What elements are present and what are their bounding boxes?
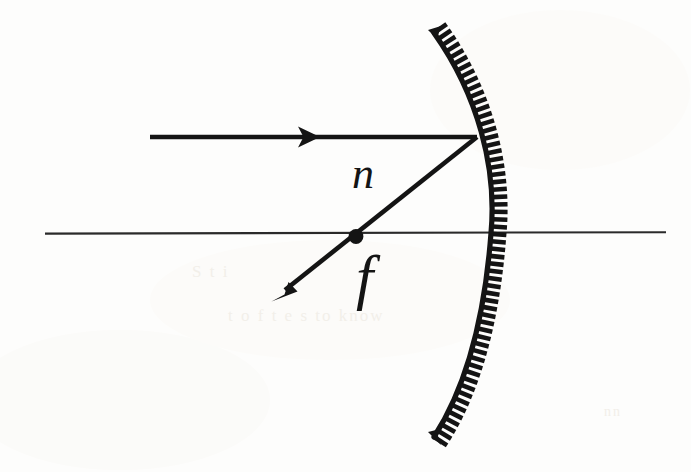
mirror-hatch-mark (493, 219, 507, 220)
diagram-canvas (0, 0, 691, 472)
mirror-hatch-mark (491, 241, 505, 242)
mirror-hatch-mark (487, 278, 501, 280)
mirror-hatch-mark (485, 292, 499, 294)
ghost-text-line-2: t o f t e s to know (228, 306, 385, 326)
mirror-hatch-mark (486, 143, 500, 146)
ghost-text-line-1: S t i (192, 262, 229, 282)
ghost-text-line-3: nn (604, 404, 622, 420)
mirror-hatch-mark (488, 271, 502, 273)
mirror-hatch-mark (489, 263, 503, 265)
mirror-hatch-mark (478, 329, 492, 332)
label-n: n (352, 152, 374, 196)
mirror-hatch-mark (491, 173, 505, 175)
mirror-hatch-mark (492, 189, 506, 190)
mirror-hatch-mark (481, 314, 495, 317)
ray-diagram-figure: n f S t i t o f t e s to know nn (0, 0, 691, 472)
mirror-hatch-mark (492, 181, 506, 182)
label-f: f (356, 246, 373, 308)
mirror-hatch-mark (493, 196, 507, 197)
focal-point-dot (349, 229, 364, 244)
mirror-hatch-mark (489, 158, 503, 161)
mirror-hatch-mark (480, 321, 494, 324)
mirror-hatch-mark (490, 256, 504, 258)
mirror-hatch-mark (493, 227, 507, 228)
mirror-hatch-mark (491, 249, 505, 250)
mirror-hatch-mark (484, 300, 498, 302)
mirror-hatch-mark (490, 166, 504, 168)
mirror-hatch-mark (483, 307, 497, 310)
mirror-hatch-mark (486, 285, 500, 287)
mirror-hatch-mark (487, 150, 501, 153)
mirror-hatch-mark (492, 234, 506, 235)
paper-texture (0, 0, 691, 472)
